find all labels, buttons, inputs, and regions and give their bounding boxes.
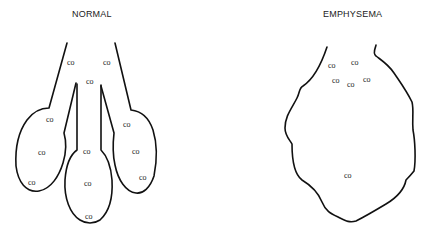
co-label: co xyxy=(328,61,336,70)
co-label: co xyxy=(28,178,36,187)
co-label: co xyxy=(103,58,111,67)
normal-lung-diagram xyxy=(16,43,156,223)
emphysema-lung-diagram xyxy=(285,45,415,222)
co-label: co xyxy=(363,75,371,84)
co-label: co xyxy=(132,147,140,156)
emphysema-co-labels: cocococococo xyxy=(328,58,371,180)
co-label: co xyxy=(38,148,46,157)
co-label: co xyxy=(46,115,54,124)
co-label: co xyxy=(344,171,352,180)
co-label: co xyxy=(347,80,355,89)
co-label: co xyxy=(351,58,359,67)
emphysema-sac-outline xyxy=(285,45,415,222)
co-label: co xyxy=(332,76,340,85)
co-label: co xyxy=(86,77,94,86)
co-label: co xyxy=(85,212,93,221)
diagram-canvas: cocococococococococococo cocococococo xyxy=(0,0,433,236)
co-label: co xyxy=(123,120,131,129)
normal-co-labels: cocococococococococococo xyxy=(28,58,147,221)
co-label: co xyxy=(139,173,147,182)
co-label: co xyxy=(67,58,75,67)
co-label: co xyxy=(84,179,92,188)
co-label: co xyxy=(83,147,91,156)
